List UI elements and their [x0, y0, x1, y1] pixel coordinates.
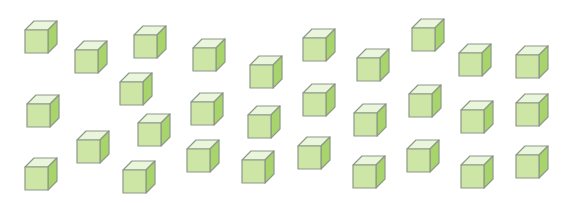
cube-front-face	[303, 93, 326, 116]
cube-front-face	[134, 35, 157, 58]
cube-front-face	[248, 115, 271, 138]
cube	[460, 155, 494, 189]
cube	[356, 48, 390, 82]
cube-front-face	[412, 28, 435, 51]
cube	[302, 83, 336, 117]
cube-front-face	[516, 55, 539, 78]
cube-front-face	[77, 140, 100, 163]
cube-front-face	[187, 149, 210, 172]
cube-front-face	[407, 149, 430, 172]
cube-front-face	[75, 50, 98, 73]
cube	[241, 150, 275, 184]
cube	[119, 72, 153, 106]
cube-front-face	[25, 30, 48, 53]
cube	[74, 40, 108, 74]
cube-front-face	[191, 102, 214, 125]
cube	[192, 38, 226, 72]
cube-front-face	[120, 82, 143, 105]
cube-front-face	[193, 48, 216, 71]
cube	[186, 139, 220, 173]
cube-front-face	[138, 123, 161, 146]
cube	[352, 155, 386, 189]
cube	[137, 113, 171, 147]
cube	[408, 84, 442, 118]
cube	[515, 45, 549, 79]
cube-front-face	[298, 146, 321, 169]
cube	[249, 55, 283, 89]
cube	[353, 103, 387, 137]
cube	[24, 20, 58, 54]
cube-front-face	[123, 170, 146, 193]
cube	[458, 43, 492, 77]
cube-front-face	[25, 167, 48, 190]
cube-front-face	[303, 38, 326, 61]
cube-front-face	[353, 165, 376, 188]
cube	[297, 136, 331, 170]
cube	[190, 92, 224, 126]
cube	[302, 28, 336, 62]
cube	[24, 157, 58, 191]
cube-front-face	[459, 53, 482, 76]
cube-front-face	[250, 65, 273, 88]
cube	[122, 160, 156, 194]
cube-front-face	[357, 58, 380, 81]
cube-front-face	[409, 94, 432, 117]
cube	[460, 100, 494, 134]
cube-front-face	[516, 103, 539, 126]
cube	[247, 105, 281, 139]
cube	[411, 18, 445, 52]
cube-front-face	[461, 165, 484, 188]
cube	[26, 94, 60, 128]
cube	[406, 139, 440, 173]
cube	[76, 130, 110, 164]
cube-front-face	[461, 110, 484, 133]
cube-front-face	[516, 155, 539, 178]
cube	[515, 145, 549, 179]
cube-front-face	[354, 113, 377, 136]
cube-front-face	[242, 160, 265, 183]
cube	[133, 25, 167, 59]
cube-front-face	[27, 104, 50, 127]
cube	[515, 93, 549, 127]
cube-illustration	[0, 0, 569, 203]
